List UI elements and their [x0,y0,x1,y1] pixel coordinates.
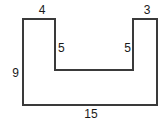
dimension-label-notch-right: 5 [119,42,131,54]
dimension-label-notch-left: 5 [58,42,70,54]
shape-outline [23,19,157,105]
dimension-label-top-right: 3 [138,4,156,16]
dimension-label-left-side: 9 [7,67,19,79]
dimension-label-top-left: 4 [33,4,51,16]
dimension-label-bottom: 15 [78,108,104,120]
geometry-figure-canvas: 4 3 9 5 5 15 [0,0,165,128]
